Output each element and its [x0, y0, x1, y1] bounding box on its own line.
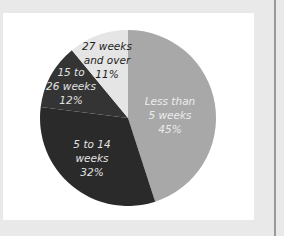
svg-text:11%: 11%	[95, 68, 118, 80]
svg-text:5 weeks: 5 weeks	[148, 109, 192, 121]
svg-text:12%: 12%	[59, 94, 82, 106]
svg-text:32%: 32%	[80, 166, 103, 178]
svg-text:27 weeks: 27 weeks	[82, 40, 132, 52]
svg-text:weeks: weeks	[75, 152, 109, 164]
svg-text:15 to: 15 to	[57, 66, 84, 78]
pie-chart: Less than 5 weeks 45% 5 to 14 weeks 32% …	[0, 0, 284, 236]
svg-text:and over: and over	[84, 54, 131, 66]
svg-text:45%: 45%	[158, 123, 181, 135]
svg-text:26 weeks: 26 weeks	[46, 80, 96, 92]
svg-text:Less than: Less than	[145, 95, 195, 107]
svg-text:5 to 14: 5 to 14	[73, 138, 110, 150]
